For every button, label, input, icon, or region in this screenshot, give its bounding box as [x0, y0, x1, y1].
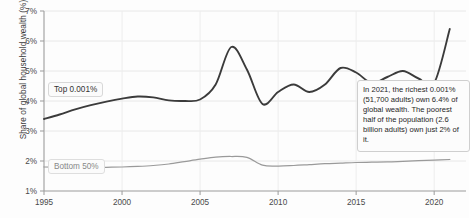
svg-text:2000: 2000 — [113, 198, 132, 207]
svg-text:2015: 2015 — [347, 198, 366, 207]
svg-text:2020: 2020 — [425, 198, 444, 207]
series-label-bottom: Bottom 50% — [48, 159, 105, 174]
svg-text:1%: 1% — [25, 187, 37, 196]
svg-text:4%: 4% — [25, 97, 37, 106]
series-label-top: Top 0.001% — [48, 82, 103, 97]
svg-text:1995: 1995 — [35, 198, 54, 207]
svg-text:2%: 2% — [25, 157, 37, 166]
svg-text:6%: 6% — [25, 37, 37, 46]
svg-text:7%: 7% — [25, 7, 37, 16]
chart-annotation-note: In 2021, the richest 0.001% (51,700 adul… — [357, 80, 470, 152]
y-axis-ticks: 7%6%5%4%3%2%1% — [25, 7, 44, 196]
svg-text:5%: 5% — [25, 67, 37, 76]
svg-text:2005: 2005 — [191, 198, 210, 207]
x-axis-ticks: 199520002005201020152020 — [35, 191, 444, 207]
svg-text:2010: 2010 — [269, 198, 288, 207]
svg-text:3%: 3% — [25, 127, 37, 136]
